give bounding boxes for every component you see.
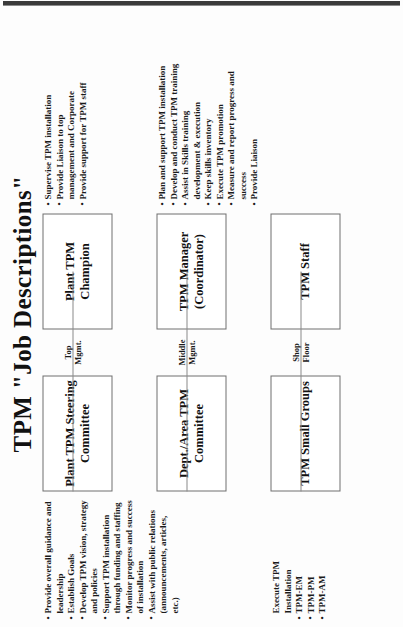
node-box-label: TPM Small Groups bbox=[270, 375, 340, 491]
node-tpm-manager-coordinator[interactable]: TPM Manager (Coordinator) bbox=[156, 213, 226, 329]
small-groups-duties: Execute TPM Installation TPM-EM TPM-PM T… bbox=[270, 491, 328, 619]
list-item: Provide overall guidance and leadership bbox=[42, 497, 65, 619]
node-box-label: Dept./Area TPM Committee bbox=[156, 375, 226, 491]
node-tpm-small-groups[interactable]: TPM Small Groups bbox=[270, 375, 340, 491]
node-plant-tpm-champion[interactable]: Plant TPM Champion bbox=[42, 213, 112, 329]
list-item: TPM-PM bbox=[305, 497, 317, 619]
list-item: Keep skills inventory bbox=[202, 63, 214, 205]
node-box-label: Plant TPM Steering Committee bbox=[42, 375, 112, 491]
org-chart: Provide overall guidance and leadership … bbox=[40, 8, 372, 619]
node-dept-area-tpm-committee[interactable]: Dept./Area TPM Committee bbox=[156, 375, 226, 491]
list-item: TPM-EM bbox=[293, 497, 305, 619]
list-item: Measure and report progress and success bbox=[225, 63, 248, 205]
connector-dept-to-manager bbox=[186, 271, 187, 491]
list-item: Support TPM installation through funding… bbox=[100, 497, 123, 619]
list-item: TPM-AM bbox=[316, 497, 328, 619]
list-item: Provide support for TPM staff bbox=[77, 63, 89, 205]
list-item: Assist in Skills training development & … bbox=[179, 63, 202, 205]
connector-steering-to-champion bbox=[72, 271, 73, 491]
node-box-label: TPM Manager (Coordinator) bbox=[156, 213, 226, 329]
list-item: Execute TPM promotion bbox=[214, 63, 226, 205]
list-item: Provide Liaison bbox=[248, 63, 260, 205]
tier-shop-floor: Execute TPM Installation TPM-EM TPM-PM T… bbox=[270, 8, 362, 619]
bullet-list: Plan and support TPM installation Develo… bbox=[156, 63, 260, 205]
list-item: Monitor progress and success of installa… bbox=[123, 497, 146, 619]
plant-champion-duties: Supervise TPM installation Provide Liais… bbox=[42, 63, 88, 213]
node-box-label: Plant TPM Champion bbox=[42, 213, 112, 329]
scanned-slide-page: TPM "Job Descriptions" Provide overall g… bbox=[0, 0, 403, 627]
list-item: Develop TPM vision, strategy and policie… bbox=[77, 497, 100, 619]
list-item: Develop and conduct TPM training bbox=[168, 63, 180, 205]
page-title: TPM "Job Descriptions" bbox=[8, 8, 36, 619]
list-item: Provide Liaison to top management and Co… bbox=[54, 63, 77, 205]
tier-middle-management: Dept./Area TPM Committee Middle Mgmt. TP… bbox=[156, 8, 248, 619]
list-item: Plan and support TPM installation bbox=[156, 63, 168, 205]
node-plant-tpm-steering-committee[interactable]: Plant TPM Steering Committee bbox=[42, 375, 112, 491]
connector-small-groups-to-staff bbox=[300, 271, 301, 491]
list-lead-text: Execute TPM Installation bbox=[270, 497, 293, 619]
node-tpm-staff[interactable]: TPM Staff bbox=[270, 213, 340, 329]
slide-content-rotated: TPM "Job Descriptions" Provide overall g… bbox=[0, 0, 403, 627]
node-box-label: TPM Staff bbox=[270, 213, 340, 329]
bullet-list: Execute TPM Installation TPM-EM TPM-PM T… bbox=[270, 497, 328, 619]
bullet-list: Supervise TPM installation Provide Liais… bbox=[42, 63, 88, 205]
list-item: Supervise TPM installation bbox=[42, 63, 54, 205]
tier-top-management: Provide overall guidance and leadership … bbox=[42, 8, 134, 619]
tpm-manager-duties: Plan and support TPM installation Develo… bbox=[156, 63, 260, 213]
list-item: Establish Goals bbox=[65, 497, 77, 619]
